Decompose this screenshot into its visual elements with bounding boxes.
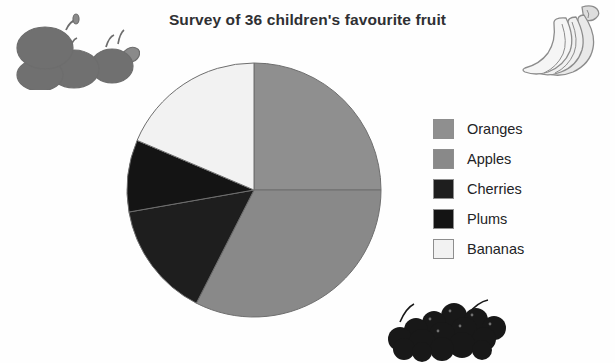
legend-swatch-bananas: [433, 239, 454, 259]
legend-label: Cherries: [467, 182, 522, 197]
legend-label: Bananas: [467, 242, 524, 257]
legend-swatch-apples: [433, 149, 454, 169]
legend-swatch-plums: [433, 209, 454, 229]
legend-label: Oranges: [467, 122, 523, 137]
bananas-illustration: [506, 0, 614, 78]
cherries-illustration: [372, 292, 512, 363]
legend-item-cherries: Cherries: [433, 174, 583, 204]
pie-slices: [127, 63, 381, 317]
apples-illustration: [4, 2, 140, 90]
pie-slice-oranges: [254, 63, 381, 190]
chart-page: Survey of 36 children's favourite fruit …: [0, 0, 615, 363]
legend-swatch-oranges: [433, 119, 454, 139]
legend-item-apples: Apples: [433, 144, 583, 174]
legend-item-bananas: Bananas: [433, 234, 583, 264]
legend-label: Plums: [467, 212, 507, 227]
legend-label: Apples: [467, 152, 511, 167]
legend-swatch-cherries: [433, 179, 454, 199]
legend-item-oranges: Oranges: [433, 114, 583, 144]
legend-item-plums: Plums: [433, 204, 583, 234]
pie-chart-svg: [126, 62, 382, 318]
pie-chart: [126, 62, 382, 318]
chart-legend: OrangesApplesCherriesPlumsBananas: [433, 114, 583, 264]
